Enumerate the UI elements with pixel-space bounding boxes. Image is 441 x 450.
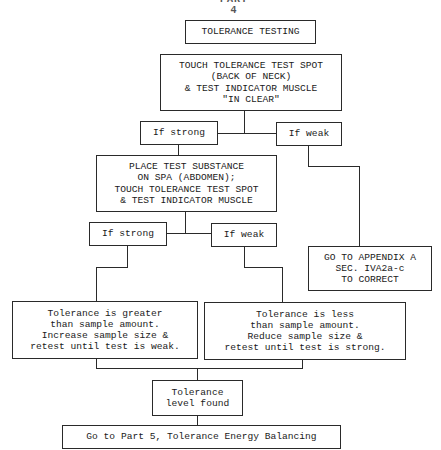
connector-line <box>308 145 309 167</box>
connector-line <box>244 267 283 268</box>
connector-line <box>218 133 276 134</box>
connector-line <box>166 233 211 234</box>
step1-touch-test-spot-box: TOUCH TOLERANCE TEST SPOT (BACK OF NECK)… <box>160 54 342 111</box>
connector-line <box>308 166 360 167</box>
next-step-part5-box: Go to Part 5, Tolerance Energy Balancing <box>62 425 341 449</box>
branch1-if-weak-box: If weak <box>276 122 342 146</box>
connector-line <box>244 246 245 268</box>
step2-place-test-substance-box: PLACE TEST SUBSTANCE ON SPA (ABDOMEN); T… <box>96 155 277 212</box>
connector-line <box>127 245 128 268</box>
appendix-correction-box: GO TO APPENDIX A SEC. IVA2a-c TO CORRECT <box>308 246 432 291</box>
connector-line <box>197 368 198 380</box>
connector-line <box>197 415 198 425</box>
title-box: TOLERANCE TESTING <box>185 20 316 44</box>
result-tolerance-greater-box: Tolerance is greater than sample amount.… <box>12 301 198 359</box>
connector-line <box>96 368 303 369</box>
connector-line <box>178 144 179 155</box>
result-tolerance-less-box: Tolerance is less than sample amount. Re… <box>204 302 406 360</box>
connector-line <box>96 267 128 268</box>
connector-line <box>359 166 360 246</box>
connector-line <box>185 211 186 234</box>
connector-line <box>96 267 97 302</box>
tolerance-level-found-box: Tolerance level found <box>152 380 243 416</box>
branch2-if-strong-box: If strong <box>89 222 167 246</box>
connector-line <box>282 267 283 303</box>
connector-line <box>244 111 245 134</box>
branch2-if-weak-box: If weak <box>211 223 277 247</box>
branch1-if-strong-box: If strong <box>140 121 218 145</box>
page-title: PART 4 <box>214 0 254 16</box>
